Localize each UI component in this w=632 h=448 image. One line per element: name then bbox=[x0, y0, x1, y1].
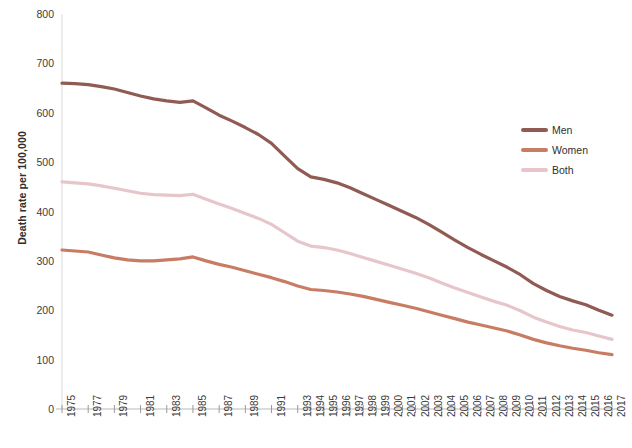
x-tick-label: 1979 bbox=[118, 395, 129, 417]
x-tick-label: 2013 bbox=[564, 395, 575, 417]
x-tick-label: 2004 bbox=[446, 395, 457, 417]
x-tick-label: 1994 bbox=[315, 395, 326, 417]
x-tick-label: 2007 bbox=[485, 395, 496, 417]
legend-label: Men bbox=[552, 124, 572, 136]
x-tick-label: 2000 bbox=[393, 395, 404, 417]
x-tick-label: 2006 bbox=[472, 395, 483, 417]
x-tick-label: 1991 bbox=[276, 395, 287, 417]
x-tick-label: 2015 bbox=[590, 395, 601, 417]
x-tick-label: 2016 bbox=[603, 395, 614, 417]
x-tick-label: 2003 bbox=[433, 395, 444, 417]
x-tick-label: 1989 bbox=[249, 395, 260, 417]
x-tick-label: 1997 bbox=[354, 395, 365, 417]
legend-swatch-icon bbox=[521, 168, 548, 172]
legend-item-women[interactable]: Women bbox=[521, 140, 588, 160]
x-tick-label: 2012 bbox=[551, 395, 562, 417]
x-tick-label: 2014 bbox=[577, 395, 588, 417]
x-tick-label: 1995 bbox=[328, 395, 339, 417]
x-tick-label: 1981 bbox=[145, 395, 156, 417]
line-chart: Death rate per 100,000 01002003004005006… bbox=[0, 0, 632, 448]
x-tick-label: 2009 bbox=[511, 395, 522, 417]
x-tick-label: 2002 bbox=[420, 395, 431, 417]
legend-label: Women bbox=[552, 144, 588, 156]
x-tick-label: 1998 bbox=[367, 395, 378, 417]
x-tick-label: 1977 bbox=[92, 395, 103, 417]
chart-legend: MenWomenBoth bbox=[521, 120, 588, 180]
x-tick-label: 1993 bbox=[302, 395, 313, 417]
x-tick-label: 1975 bbox=[66, 395, 77, 417]
legend-label: Both bbox=[552, 164, 574, 176]
x-tick-label: 2005 bbox=[459, 395, 470, 417]
x-tick-label: 1999 bbox=[380, 395, 391, 417]
legend-swatch-icon bbox=[521, 148, 548, 152]
legend-item-men[interactable]: Men bbox=[521, 120, 588, 140]
x-tick-label: 1996 bbox=[341, 395, 352, 417]
legend-item-both[interactable]: Both bbox=[521, 160, 588, 180]
x-tick-label: 2001 bbox=[406, 395, 417, 417]
x-tick-label: 2008 bbox=[498, 395, 509, 417]
x-tick-label: 1985 bbox=[197, 395, 208, 417]
x-tick-label: 2010 bbox=[524, 395, 535, 417]
x-tick-label: 1983 bbox=[171, 395, 182, 417]
x-tick-label: 2017 bbox=[616, 395, 627, 417]
legend-swatch-icon bbox=[521, 128, 548, 132]
x-tick-label: 1987 bbox=[223, 395, 234, 417]
x-axis-tick-labels: 1975197719791981198319851987198919911993… bbox=[0, 0, 632, 448]
x-tick-label: 2011 bbox=[537, 396, 548, 417]
